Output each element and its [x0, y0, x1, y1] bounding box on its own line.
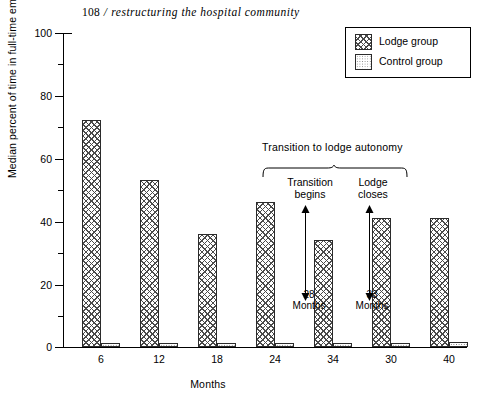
annotation-transition-begins: Transition begins	[279, 176, 341, 200]
y-tick-label-20: 20	[40, 279, 52, 291]
running-head-title: restructuring the hospital community	[111, 6, 299, 18]
bar-lodge-24	[256, 202, 275, 347]
y-tick-label-0: 0	[46, 341, 52, 353]
bar-lodge-18	[198, 234, 217, 347]
y-tick-80	[55, 96, 64, 97]
y-tick-10	[58, 316, 64, 317]
bar-lodge-40	[430, 218, 449, 347]
annotation-bracket-title: Transition to lodge autonomy	[262, 141, 403, 153]
bar-lodge-12	[140, 180, 159, 347]
x-tick-label-6: 40	[430, 353, 468, 365]
y-tick-0	[55, 347, 64, 348]
y-tick-label-100: 100	[34, 27, 52, 39]
annotation-marker-33: 33 Months	[348, 289, 396, 311]
annotation-lodge-closes-line1: Lodge	[358, 176, 387, 188]
y-tick-40	[55, 222, 64, 223]
y-tick-label-60: 60	[40, 153, 52, 165]
x-tick-label-3: 24	[256, 353, 294, 365]
annotation-marker-33-value: 33	[366, 289, 377, 300]
bar-control-24	[275, 343, 294, 347]
annotation-double-arrow-33-icon	[364, 205, 375, 301]
page-folio: 108	[82, 6, 100, 18]
annotation-lodge-closes-line2: closes	[358, 188, 388, 200]
annotation-lodge-closes: Lodge closes	[348, 176, 398, 200]
x-tick-label-2: 18	[198, 353, 236, 365]
bar-control-34	[333, 343, 352, 347]
bar-control-12	[159, 343, 178, 347]
x-tick-label-1: 12	[140, 353, 178, 365]
running-head-separator: /	[100, 6, 111, 18]
running-head: 108/restructuring the hospital community	[82, 6, 300, 18]
y-axis-title: Median percent of time in full-time empl…	[6, 0, 18, 178]
bar-control-18	[217, 343, 236, 347]
annotation-marker-28-unit: Months	[293, 300, 326, 311]
figure-bar-chart: 108/restructuring the hospital community…	[0, 0, 482, 402]
annotation-transition-begins-line1: Transition	[287, 176, 333, 188]
bar-control-40	[449, 342, 468, 347]
x-tick-label-0: 6	[82, 353, 120, 365]
bar-control-6	[101, 343, 120, 347]
x-axis-title-text: Months	[190, 378, 226, 390]
legend-swatch-lodge-icon	[355, 34, 372, 50]
bar-control-30	[391, 343, 410, 347]
annotation-transition-begins-line2: begins	[295, 188, 326, 200]
annotation-marker-28: 28 Months	[285, 289, 333, 311]
annotation-marker-33-unit: Months	[356, 300, 389, 311]
chart-legend: Lodge group Control group	[345, 27, 471, 78]
annotation-double-arrow-28-icon	[300, 205, 311, 301]
y-tick-label-80: 80	[40, 90, 52, 102]
y-tick-label-40: 40	[40, 216, 52, 228]
plot-area: 100 80 60 40 20 0	[63, 33, 467, 348]
x-tick-label-4: 34	[314, 353, 352, 365]
y-tick-90	[58, 64, 64, 65]
x-axis-line	[63, 347, 467, 348]
axis-top-cap	[63, 33, 72, 34]
y-tick-20	[55, 285, 64, 286]
y-tick-60	[55, 159, 64, 160]
bar-lodge-6	[82, 120, 101, 347]
legend-swatch-control-icon	[355, 54, 372, 70]
x-tick-label-5: 30	[372, 353, 410, 365]
y-tick-100	[55, 33, 64, 34]
y-tick-30	[58, 253, 64, 254]
y-tick-50	[58, 190, 64, 191]
legend-label-lodge: Lodge group	[379, 35, 438, 47]
y-tick-70	[58, 127, 64, 128]
x-axis-title: Months	[0, 378, 482, 390]
annotation-marker-28-value: 28	[303, 289, 314, 300]
legend-label-control: Control group	[379, 55, 443, 67]
